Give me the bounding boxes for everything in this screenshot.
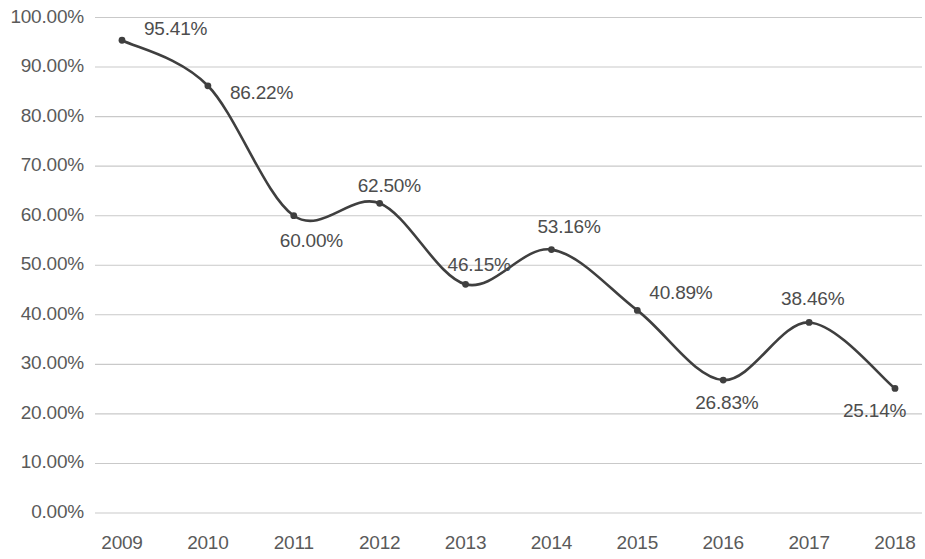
data-point-marker[interactable] [204,82,211,89]
x-axis-tick-label: 2010 [168,532,248,554]
y-axis-tick-label: 100.00% [10,6,84,28]
x-axis-tick-label: 2015 [597,532,677,554]
x-axis-tick-label: 2012 [340,532,420,554]
y-axis-tick-label: 40.00% [21,303,84,325]
x-axis-tick-label: 2011 [254,532,334,554]
y-axis-tick-label: 80.00% [21,105,84,127]
x-axis-tick-label: 2018 [855,532,925,554]
y-axis-tick-label: 60.00% [21,204,84,226]
x-axis-tick-label: 2017 [769,532,849,554]
y-axis-tick-label: 90.00% [21,55,84,77]
x-axis-tick-label: 2013 [426,532,506,554]
data-point-marker[interactable] [462,281,469,288]
y-axis-tick-label: 50.00% [21,253,84,275]
data-point-marker[interactable] [290,212,297,219]
data-point-marker[interactable] [720,377,727,384]
data-point-marker[interactable] [548,246,555,253]
x-axis-tick-label: 2014 [511,532,591,554]
data-point-label: 62.50% [358,175,421,197]
data-point-label: 86.22% [230,82,293,104]
y-axis-tick-label: 30.00% [21,352,84,374]
y-axis-tick-label: 20.00% [21,402,84,424]
data-point-label: 25.14% [843,400,906,422]
data-point-marker[interactable] [376,200,383,207]
data-point-label: 38.46% [781,288,844,310]
data-point-label: 60.00% [280,230,343,252]
data-point-label: 26.83% [695,392,758,414]
y-axis-tick-label: 10.00% [21,451,84,473]
data-point-marker[interactable] [634,307,641,314]
line-chart: 0.00%10.00%20.00%30.00%40.00%50.00%60.00… [0,0,925,559]
data-point-marker[interactable] [119,37,126,44]
data-point-label: 40.89% [649,282,712,304]
data-point-marker[interactable] [892,385,899,392]
x-axis-tick-label: 2009 [82,532,162,554]
data-point-label: 95.41% [144,18,207,40]
y-axis-tick-label: 0.00% [31,501,84,523]
data-point-marker[interactable] [806,319,813,326]
x-axis-tick-label: 2016 [683,532,763,554]
y-axis-tick-label: 70.00% [21,154,84,176]
data-point-label: 46.15% [448,254,511,276]
data-point-label: 53.16% [537,216,600,238]
chart-plot-area [0,0,925,559]
